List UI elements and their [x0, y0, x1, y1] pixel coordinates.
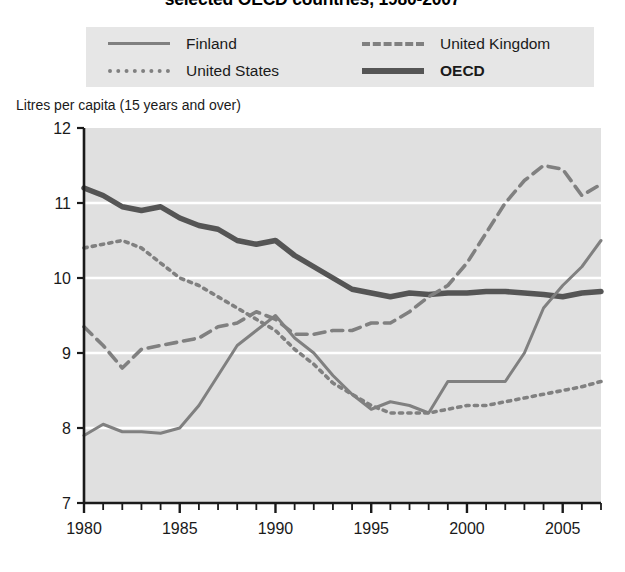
y-tick-label: 12	[53, 120, 71, 137]
chart-plot-area: 789101112 198019851990199520002005	[0, 0, 625, 572]
y-tick-label: 9	[62, 345, 71, 362]
x-tick-label: 1980	[66, 520, 102, 537]
y-tick-label: 11	[54, 195, 71, 212]
x-tick-label: 2005	[545, 520, 581, 537]
x-tick-label: 1990	[258, 520, 294, 537]
x-tick-label: 2000	[449, 520, 485, 537]
y-tick-label: 10	[53, 270, 71, 287]
y-tick-label: 8	[62, 420, 71, 437]
x-tick-label: 1995	[353, 520, 389, 537]
y-tick-labels: 789101112	[53, 120, 71, 512]
x-tick-label: 1985	[162, 520, 198, 537]
y-tick-label: 7	[62, 495, 71, 512]
chart-svg: 789101112 198019851990199520002005	[0, 0, 625, 572]
x-tick-labels: 198019851990199520002005	[66, 520, 580, 537]
